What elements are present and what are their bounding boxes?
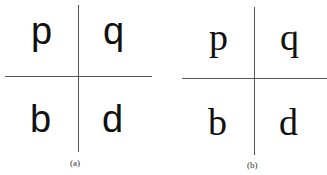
letter-top-left: p: [209, 18, 228, 56]
letter-top-left: p: [31, 12, 52, 50]
panel-a: p q b d (a): [0, 0, 165, 175]
horizontal-axis-line: [5, 76, 152, 77]
vertical-axis-line: [78, 5, 79, 152]
letter-top-right: q: [280, 18, 299, 56]
letter-top-right: q: [103, 12, 124, 50]
panel-caption: (b): [247, 160, 258, 170]
letter-bottom-right: d: [279, 103, 298, 141]
panel-caption: (a): [70, 158, 80, 168]
horizontal-axis-line: [182, 78, 327, 79]
letter-bottom-left: b: [208, 103, 227, 141]
letter-bottom-left: b: [30, 100, 51, 138]
panel-b: p q b d (b): [165, 0, 327, 175]
vertical-axis-line: [254, 7, 255, 155]
letter-bottom-right: d: [102, 100, 123, 138]
